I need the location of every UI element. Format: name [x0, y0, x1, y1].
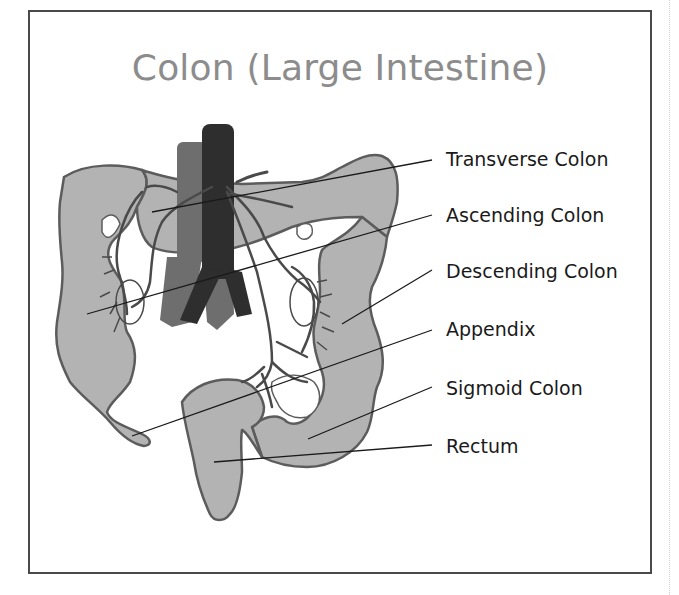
- diagram-frame: Colon (Large Intestine): [28, 10, 652, 574]
- label-rectum: Rectum: [446, 435, 518, 457]
- colon-illustration: [2, 2, 679, 595]
- label-appendix: Appendix: [446, 318, 535, 340]
- label-transverse-colon: Transverse Colon: [446, 148, 608, 170]
- label-ascending-colon: Ascending Colon: [446, 204, 604, 226]
- label-descending-colon: Descending Colon: [446, 260, 618, 282]
- label-sigmoid-colon: Sigmoid Colon: [446, 377, 583, 399]
